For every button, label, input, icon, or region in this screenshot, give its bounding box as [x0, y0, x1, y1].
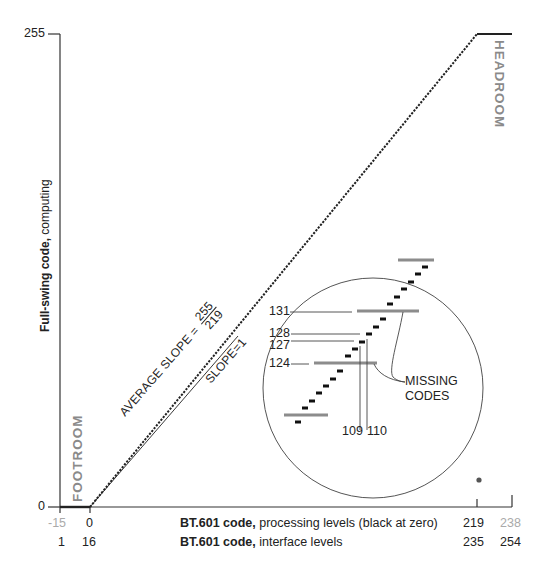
inset-label-131: 131 — [269, 304, 290, 318]
x-iface-label-1: 1 — [58, 535, 65, 549]
y-axis-title: Full-swing code, computing — [38, 179, 52, 332]
y-axis-title-rest: computing — [38, 179, 52, 238]
x-tick-label-238: 238 — [500, 516, 521, 530]
inset-label-110: 110 — [367, 424, 387, 438]
x-tick-label-219: 219 — [463, 516, 484, 530]
x-tick-label-0: 0 — [86, 516, 93, 530]
inset-label-109: 109 — [342, 424, 363, 438]
headroom-label: HEADROOM — [492, 40, 507, 128]
footroom-label: FOOTROOM — [70, 415, 85, 503]
x-iface-label-16: 16 — [82, 535, 96, 549]
marker-dot — [476, 477, 481, 482]
x-iface-label-254: 254 — [500, 535, 521, 549]
inset-label-127: 127 — [269, 338, 290, 352]
y-axis-title-bold: Full-swing code, — [38, 238, 52, 332]
x-axis-title-processing: BT.601 code, processing levels (black at… — [180, 516, 438, 530]
y-tick-label-255: 255 — [24, 26, 45, 40]
x-axis-title-interface: BT.601 code, interface levels — [180, 535, 343, 549]
missing-codes-label: MISSING CODES — [405, 374, 458, 404]
x-iface-label-235: 235 — [463, 535, 484, 549]
y-tick-label-0: 0 — [38, 499, 45, 513]
inset-label-124: 124 — [269, 356, 290, 370]
x-tick-label-neg15: -15 — [48, 516, 66, 530]
